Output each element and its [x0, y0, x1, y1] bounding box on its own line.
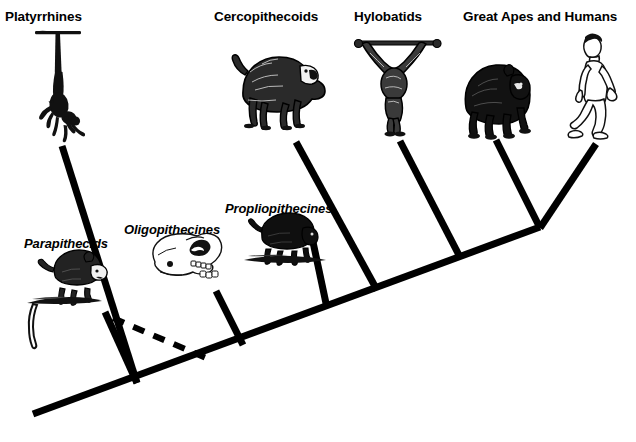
- branch-great-apes: [496, 140, 540, 228]
- branch-humans: [540, 144, 596, 228]
- label-platyrrhines: Platyrrhines: [5, 9, 82, 24]
- label-propliopithecines: Propliopithecines: [225, 201, 332, 216]
- tree-branches-group: [62, 140, 596, 383]
- parapithecid-monkey-icon: [27, 250, 107, 348]
- baboon-quadrupedal-icon: [232, 55, 325, 130]
- cladogram-figure: Platyrrhines Cercopithecoids Hylobatids …: [0, 0, 636, 442]
- chimpanzee-knuckle-walk-icon: [465, 65, 531, 140]
- label-cercopithecoids: Cercopithecoids: [214, 9, 318, 24]
- branch-hylobatids: [400, 141, 460, 257]
- label-oligopithecines: Oligopithecines: [124, 222, 220, 237]
- label-great-apes-and-humans: Great Apes and Humans: [463, 9, 617, 24]
- label-parapithecids: Parapithecids: [24, 236, 108, 251]
- human-walking-icon: [568, 33, 617, 139]
- phylogeny-tree-svg: [0, 0, 636, 442]
- branch-cercopithecoids: [296, 142, 377, 290]
- spider-monkey-hanging-icon: [35, 31, 85, 143]
- gibbon-brachiating-icon: [355, 40, 442, 137]
- oligopithecine-skull-icon: [153, 233, 222, 278]
- branch-propliopithecines: [313, 242, 327, 308]
- label-hylobatids: Hylobatids: [354, 9, 422, 24]
- branch-oligopithecines: [216, 291, 243, 345]
